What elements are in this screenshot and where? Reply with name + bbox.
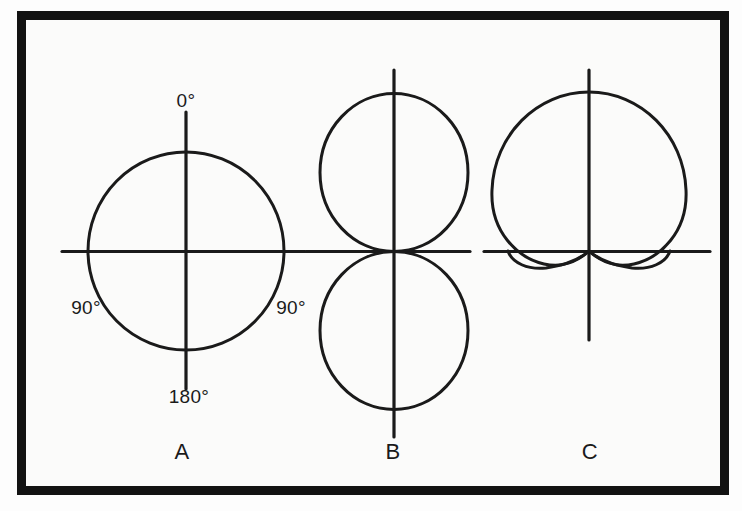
panel-caption-a: A: [174, 441, 189, 463]
panel-caption-b: B: [385, 441, 400, 463]
angle-label-0: 0°: [177, 91, 196, 110]
figure-root: 0° 90° 90° 180° A B C: [0, 0, 742, 511]
angle-label-90-left: 90°: [71, 298, 101, 317]
radiation-pattern-plots: [0, 0, 742, 511]
panel-b-plot: [306, 70, 470, 437]
panel-c-plot: [484, 70, 710, 340]
angle-label-180: 180°: [169, 387, 210, 406]
panel-a-plot: [62, 112, 305, 389]
angle-label-90-right: 90°: [276, 298, 306, 317]
panel-caption-c: C: [582, 441, 598, 463]
